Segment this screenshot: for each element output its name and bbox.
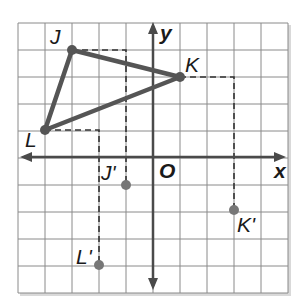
point-k (175, 72, 185, 82)
point-l (40, 125, 50, 135)
y-axis-label: y (159, 21, 173, 44)
label-k: K (185, 53, 200, 76)
point-l-prime (94, 260, 104, 270)
grid-shadow (18, 23, 291, 296)
label-l-prime: L' (76, 245, 93, 268)
origin-label: O (159, 159, 175, 182)
label-j: J (49, 25, 61, 48)
label-l: L (25, 128, 37, 151)
point-j (67, 45, 77, 55)
x-axis-label: x (273, 159, 287, 182)
label-j-prime: J' (100, 161, 117, 184)
point-j-prime (121, 180, 131, 190)
coordinate-graph: J K L J' K' L' O x y (0, 0, 303, 301)
label-k-prime: K' (237, 213, 256, 236)
